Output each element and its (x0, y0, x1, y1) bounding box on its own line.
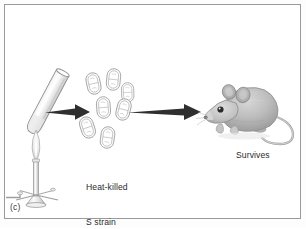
panel-label: (c) (10, 203, 21, 212)
figure-panel-c: Heat-killed S strain Survives (c) (0, 0, 306, 228)
label-heat-killed-line2: S strain (86, 217, 128, 229)
label-heat-killed-line1: Heat-killed (86, 182, 128, 194)
label-heat-killed-s-strain: Heat-killed S strain (86, 159, 128, 228)
figure-border (4, 4, 301, 219)
label-survives: Survives (236, 150, 270, 162)
